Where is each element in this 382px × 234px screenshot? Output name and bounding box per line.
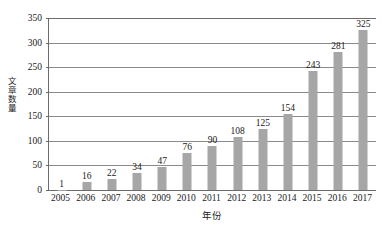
bar-value-label: 154: [281, 103, 295, 113]
x-axis-tick-label: 2016: [328, 192, 347, 204]
bar[interactable]: [309, 71, 318, 190]
bar-value-label: 22: [107, 168, 117, 178]
bar[interactable]: [107, 179, 116, 190]
y-axis-tick-label: 100: [28, 136, 42, 146]
bar-value-label: 125: [256, 118, 270, 128]
bar-value-label: 76: [183, 142, 193, 152]
bar[interactable]: [82, 182, 91, 190]
bar-group: 47: [150, 18, 175, 190]
bar[interactable]: [334, 52, 343, 190]
x-axis-tick-label: 2011: [202, 192, 221, 204]
x-axis-tick-label: 2006: [76, 192, 95, 204]
bar-value-label: 16: [82, 171, 92, 181]
bar-group: 325: [351, 18, 376, 190]
bar-value-label: 1: [59, 179, 64, 189]
bar-group: 1: [49, 18, 74, 190]
x-axis-tick-label: 2017: [353, 192, 372, 204]
x-axis-tick-label: 2010: [177, 192, 196, 204]
bars-layer: 1162234477690108125154243281325: [49, 18, 376, 190]
bar-value-label: 243: [306, 60, 320, 70]
bar-group: 22: [99, 18, 124, 190]
x-axis-tick-label: 2007: [101, 192, 120, 204]
bar-group: 281: [326, 18, 351, 190]
bar-chart: 文章数量 050100150200250300350 1162234477690…: [0, 0, 382, 234]
y-axis-tick-label: 200: [28, 87, 42, 97]
x-axis-tick-label: 2009: [152, 192, 171, 204]
y-axis-tick-mark: [46, 190, 49, 191]
x-axis-tick-label: 2008: [127, 192, 146, 204]
bar-group: 108: [225, 18, 250, 190]
y-axis-tick-label: 300: [28, 38, 42, 48]
x-axis-tick-label: 2014: [277, 192, 296, 204]
bar-value-label: 47: [157, 156, 167, 166]
bar[interactable]: [183, 153, 192, 190]
bar-group: 76: [175, 18, 200, 190]
x-axis-tick-label: 2012: [227, 192, 246, 204]
bar-value-label: 281: [331, 41, 345, 51]
x-axis-tick-label: 2015: [303, 192, 322, 204]
bar-group: 154: [275, 18, 300, 190]
bar-value-label: 34: [132, 162, 142, 172]
bar[interactable]: [283, 114, 292, 190]
bar-value-label: 325: [356, 19, 370, 29]
y-axis-tick-label: 150: [28, 111, 42, 121]
y-axis-tick-label: 50: [33, 160, 43, 170]
bar[interactable]: [258, 129, 267, 190]
bar[interactable]: [233, 137, 242, 190]
bar-group: 16: [74, 18, 99, 190]
y-axis-tick-label: 0: [37, 185, 42, 195]
y-axis-tick-label: 250: [28, 62, 42, 72]
bar-value-label: 108: [231, 126, 245, 136]
bar[interactable]: [208, 146, 217, 190]
y-axis-tick-labels: 050100150200250300350: [14, 0, 45, 190]
bar[interactable]: [359, 30, 368, 190]
bar-value-label: 90: [208, 135, 218, 145]
y-axis-tick-label: 350: [28, 13, 42, 23]
x-axis-tick-label: 2005: [51, 192, 70, 204]
bar[interactable]: [158, 167, 167, 190]
x-axis-tick-labels: 2005200620072008200920102011201220132014…: [48, 192, 375, 208]
plot-area: 1162234477690108125154243281325: [48, 18, 376, 191]
bar[interactable]: [133, 173, 142, 190]
bar-group: 90: [200, 18, 225, 190]
x-axis-tick-label: 2013: [252, 192, 271, 204]
bar-group: 125: [250, 18, 275, 190]
x-axis-title: 年份: [48, 210, 375, 222]
bar-group: 243: [301, 18, 326, 190]
bar-group: 34: [124, 18, 149, 190]
